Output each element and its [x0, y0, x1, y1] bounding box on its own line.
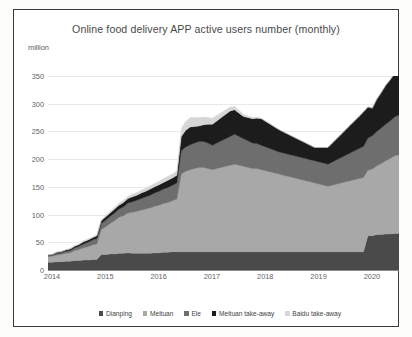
y-axis-tick: 350 [32, 72, 44, 81]
chart-title: Online food delivery APP active users nu… [14, 23, 398, 35]
legend-item-label: Meituan [150, 310, 173, 317]
chart-legend: DianpingMeituanEleMeituan take-awayBaidu… [14, 310, 412, 317]
legend-item-label: Dianping [106, 310, 132, 317]
chart-frame: Online food delivery APP active users nu… [13, 9, 399, 327]
legend-item-meituan-take-away[interactable]: Meituan take-away [212, 310, 274, 317]
y-axis-tick: 300 [32, 99, 44, 108]
y-axis-unit-label: million [28, 43, 49, 52]
legend-item-dianping[interactable]: Dianping [99, 310, 132, 317]
legend-swatch-icon [212, 311, 217, 316]
y-axis-tick: 150 [32, 182, 44, 191]
x-axis-tick: 2019 [310, 272, 326, 281]
x-axis-tick-labels: 2014201520162017201820192020 [48, 272, 399, 286]
x-axis-tick: 2017 [204, 272, 220, 281]
stacked-area-series [48, 76, 399, 270]
legend-swatch-icon [99, 311, 104, 316]
y-axis-tick: 250 [32, 127, 44, 136]
x-axis-tick: 2014 [44, 272, 60, 281]
legend-item-label: Baidu take-away [292, 310, 341, 317]
legend-swatch-icon [184, 311, 189, 316]
plot-area [48, 67, 399, 270]
x-axis-tick: 2016 [150, 272, 166, 281]
y-axis-tick: 200 [32, 155, 44, 164]
legend-item-baidu-take-away[interactable]: Baidu take-away [285, 310, 341, 317]
gridline [48, 270, 399, 271]
x-axis-tick: 2018 [257, 272, 273, 281]
chart-figure: Online food delivery APP active users nu… [0, 0, 412, 337]
y-axis-tick-labels: 050100150200250300350 [24, 67, 44, 270]
legend-swatch-icon [285, 311, 290, 316]
legend-item-label: Meituan take-away [219, 310, 274, 317]
x-axis-tick: 2015 [97, 272, 113, 281]
y-axis-tick: 100 [32, 210, 44, 219]
legend-swatch-icon [143, 311, 148, 316]
legend-item-ele[interactable]: Ele [184, 310, 201, 317]
legend-item-meituan[interactable]: Meituan [143, 310, 173, 317]
x-axis-tick: 2020 [364, 272, 380, 281]
y-axis-tick: 50 [36, 238, 44, 247]
legend-item-label: Ele [191, 310, 201, 317]
plot-inner [48, 76, 399, 270]
